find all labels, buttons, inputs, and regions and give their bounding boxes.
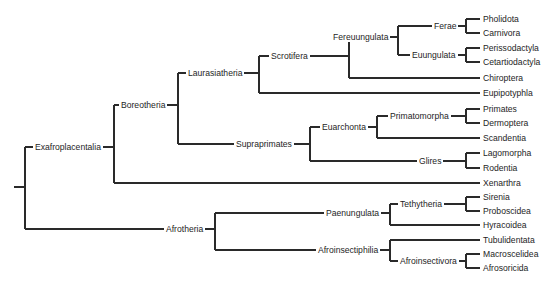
leaf-label-cetartiodactyla: Cetartiodactyla bbox=[483, 57, 540, 67]
leaf-label-carnivora: Carnivora bbox=[483, 28, 520, 38]
leaf-label-tubulidentata: Tubulidentata bbox=[483, 235, 535, 245]
leaf-label-macroscelidea: Macroscelidea bbox=[483, 249, 538, 259]
leaf-label-xenarthra: Xenarthra bbox=[483, 178, 521, 188]
leaf-label-scandentia: Scandentia bbox=[483, 133, 526, 143]
clade-label-euungulata: Euungulata bbox=[410, 50, 458, 60]
leaf-label-rodentia: Rodentia bbox=[483, 163, 517, 173]
clade-label-exafroplacentalia: Exafroplacentalia bbox=[33, 142, 103, 152]
leaf-label-eupipotyphla: Eupipotyphla bbox=[483, 88, 533, 98]
clade-label-tethytheria: Tethytheria bbox=[398, 199, 444, 209]
leaf-label-afrosoricida: Afrosoricida bbox=[483, 263, 528, 273]
clade-label-paenungulata: Paenungulata bbox=[324, 208, 381, 218]
leaf-label-proboscidea: Proboscidea bbox=[483, 206, 531, 216]
clade-label-afroinsectiphilia: Afroinsectiphilia bbox=[316, 245, 380, 255]
leaf-label-chiroptera: Chiroptera bbox=[483, 73, 523, 83]
clade-label-ferae: Ferae bbox=[432, 21, 458, 31]
clade-label-euarchonta: Euarchonta bbox=[320, 122, 368, 132]
clade-label-fereuungulata: Fereuungulata bbox=[331, 32, 390, 42]
leaf-label-dermoptera: Dermoptera bbox=[483, 118, 528, 128]
clade-label-afroinsectivora: Afroinsectivora bbox=[398, 256, 459, 266]
clade-label-laurasiatheria: Laurasiatheria bbox=[186, 68, 244, 78]
leaf-label-lagomorpha: Lagomorpha bbox=[483, 148, 531, 158]
clade-label-boreotheria: Boreotheria bbox=[119, 100, 167, 110]
leaf-label-pholidota: Pholidota bbox=[483, 14, 519, 24]
clade-label-glires: Glires bbox=[417, 156, 443, 166]
leaf-label-perissodactyla: Perissodactyla bbox=[483, 43, 539, 53]
clade-label-supraprimates: Supraprimates bbox=[234, 139, 294, 149]
leaf-label-hyracoidea: Hyracoidea bbox=[483, 220, 526, 230]
phylogenetic-tree: Exafroplacentalia Boreotheria Laurasiath… bbox=[0, 0, 555, 285]
leaf-label-sirenia: Sirenia bbox=[483, 192, 510, 202]
clade-label-afrotheria: Afrotheria bbox=[164, 224, 205, 234]
clade-label-scrotifera: Scrotifera bbox=[269, 51, 310, 61]
clade-label-primatomorpha: Primatomorpha bbox=[388, 111, 451, 121]
leaf-label-primates: Primates bbox=[483, 104, 517, 114]
